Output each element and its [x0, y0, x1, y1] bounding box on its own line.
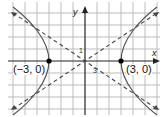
vertex-left-point — [46, 58, 51, 63]
hyperbola-graph — [0, 0, 165, 117]
tick-label-1: 1 — [79, 45, 83, 56]
y-axis-arrow-icon — [82, 6, 88, 13]
tick-label-3: 3 — [93, 65, 97, 76]
vertex-right-label: (3, 0) — [126, 64, 152, 75]
vertex-right-point — [118, 58, 123, 63]
y-axis-label: y — [73, 7, 78, 18]
vertex-left-label: (−3, 0) — [13, 64, 45, 75]
x-axis-label: x — [152, 48, 157, 59]
